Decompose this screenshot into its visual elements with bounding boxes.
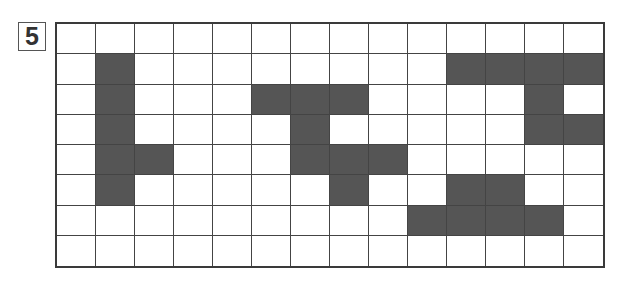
grid-cell-filled: [252, 85, 291, 115]
grid-cell-filled: [291, 85, 330, 115]
grid-cell: [135, 24, 174, 54]
grid-cell: [369, 206, 408, 236]
grid-cell: [252, 24, 291, 54]
grid-cell: [57, 85, 96, 115]
grid-cell: [135, 85, 174, 115]
grid-cell: [174, 24, 213, 54]
grid-cell-filled: [564, 115, 603, 145]
grid-cell: [174, 236, 213, 266]
grid-cell: [564, 236, 603, 266]
grid-cell: [369, 54, 408, 84]
grid-cell-filled: [96, 54, 135, 84]
grid-cell-filled: [525, 115, 564, 145]
grid-cell: [408, 145, 447, 175]
grid-cell: [369, 115, 408, 145]
grid-cell-filled: [447, 206, 486, 236]
grid-cell: [135, 236, 174, 266]
grid-cell: [564, 24, 603, 54]
grid-cell: [291, 175, 330, 205]
grid-cell: [447, 115, 486, 145]
grid-cell: [564, 145, 603, 175]
grid-cell: [564, 175, 603, 205]
grid-cell: [447, 85, 486, 115]
grid-cell: [135, 54, 174, 84]
grid-cell: [330, 54, 369, 84]
grid-cell: [57, 206, 96, 236]
grid-cell: [213, 85, 252, 115]
grid-cell-filled: [486, 206, 525, 236]
grid-cell: [213, 24, 252, 54]
grid-cell: [447, 236, 486, 266]
grid-cell: [135, 206, 174, 236]
puzzle-number-label: 5: [18, 22, 46, 51]
grid-cell-filled: [486, 54, 525, 84]
grid-cell: [291, 54, 330, 84]
grid-cell-filled: [330, 145, 369, 175]
grid-cell-filled: [447, 175, 486, 205]
grid-cell: [408, 24, 447, 54]
grid-cell: [447, 145, 486, 175]
grid-cell: [486, 85, 525, 115]
grid-cell-filled: [408, 206, 447, 236]
grid-cell: [330, 24, 369, 54]
grid-cell: [369, 236, 408, 266]
grid-cell: [213, 54, 252, 84]
grid-cell-filled: [447, 54, 486, 84]
grid-cell: [57, 145, 96, 175]
grid-cell: [525, 175, 564, 205]
grid-cell-filled: [291, 115, 330, 145]
grid-cell: [213, 145, 252, 175]
grid-cell: [486, 145, 525, 175]
grid-cell: [408, 236, 447, 266]
grid-cell: [408, 175, 447, 205]
grid-cell: [369, 24, 408, 54]
grid-cell: [57, 175, 96, 205]
grid-cell: [291, 236, 330, 266]
grid-cell: [252, 175, 291, 205]
grid-cell: [57, 24, 96, 54]
grid-cell: [174, 206, 213, 236]
grid-cell: [330, 115, 369, 145]
grid-cell-filled: [369, 145, 408, 175]
pixel-grid: [55, 22, 605, 268]
grid-cell-filled: [135, 145, 174, 175]
grid-cell-filled: [330, 85, 369, 115]
grid-cell: [252, 145, 291, 175]
grid-cell: [135, 115, 174, 145]
grid-cell-filled: [525, 206, 564, 236]
grid-cell: [174, 175, 213, 205]
grid-cell: [330, 236, 369, 266]
grid-cell: [174, 145, 213, 175]
grid-cell: [213, 175, 252, 205]
grid-cell: [213, 236, 252, 266]
grid-cell: [252, 115, 291, 145]
grid-cell: [96, 236, 135, 266]
grid-cell-filled: [96, 115, 135, 145]
grid-cell: [564, 85, 603, 115]
grid-cell: [564, 206, 603, 236]
grid-cell: [369, 175, 408, 205]
grid-cell: [525, 236, 564, 266]
grid-cell: [525, 24, 564, 54]
grid-cell: [408, 115, 447, 145]
grid-cell-filled: [330, 175, 369, 205]
grid-cell-filled: [96, 175, 135, 205]
grid-cell: [525, 145, 564, 175]
grid-cell: [174, 54, 213, 84]
grid-cell: [369, 85, 408, 115]
grid-cell-filled: [486, 175, 525, 205]
grid-cell: [252, 236, 291, 266]
grid-cell: [447, 24, 486, 54]
grid-cell-filled: [564, 54, 603, 84]
grid-cell-filled: [525, 54, 564, 84]
grid-cell-filled: [96, 85, 135, 115]
grid-cell: [330, 206, 369, 236]
grid-cell-filled: [291, 145, 330, 175]
grid-cell-filled: [96, 145, 135, 175]
grid-cell: [213, 206, 252, 236]
grid-cell: [252, 206, 291, 236]
grid-cell: [174, 85, 213, 115]
grid-cell: [213, 115, 252, 145]
grid-cell: [57, 236, 96, 266]
grid-cell-filled: [525, 85, 564, 115]
